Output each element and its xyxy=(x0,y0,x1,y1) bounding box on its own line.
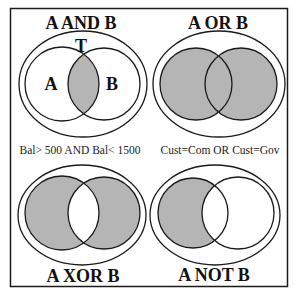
panel-and-title: A AND B xyxy=(45,13,116,33)
universe-label: T xyxy=(75,36,87,56)
panel-xor-title: A XOR B xyxy=(46,266,119,286)
panel-or-title: A OR B xyxy=(188,13,248,33)
set-b-label: B xyxy=(106,74,118,94)
set-a-label: A xyxy=(45,74,58,94)
venn-diagram-figure: A AND B T A B Bal> 500 AND Bal< 1500 A O… xyxy=(0,0,296,304)
panel-and-caption: Bal> 500 AND Bal< 1500 xyxy=(20,144,141,156)
panel-or-caption: Cust=Com OR Cust=Gov xyxy=(160,144,279,156)
panel-not-title: A NOT B xyxy=(178,265,250,285)
